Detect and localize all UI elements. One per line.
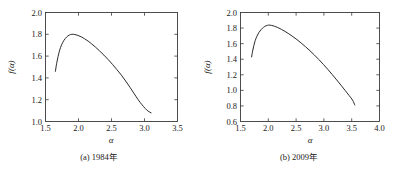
x-tick-label: 3.0 xyxy=(139,123,150,133)
x-tick-labels-a: 1.52.02.53.03.5 xyxy=(40,123,183,133)
x-tick-labels-b: 1.52.02.53.03.54.0 xyxy=(235,123,385,133)
y-tick-label: 1.0 xyxy=(31,117,42,127)
x-tick-label: 3.5 xyxy=(346,123,357,133)
x-tick-label: 2.5 xyxy=(291,123,302,133)
y-tick-label: 0.6 xyxy=(226,117,237,127)
x-tick-label: 4.0 xyxy=(374,123,385,133)
plot-frame-a xyxy=(46,13,178,122)
axes-group-a: 1.52.02.53.03.5 1.01.21.41.61.82.0 xyxy=(31,8,182,134)
y-tick-label: 1.6 xyxy=(31,51,42,61)
y-tick-label: 0.8 xyxy=(226,101,237,111)
y-tick-label: 1.2 xyxy=(226,70,237,80)
chart-panel-a: 1.52.02.53.03.5 1.01.21.41.61.82.0 α f(α… xyxy=(0,0,198,172)
data-curve-b xyxy=(252,25,355,105)
chart-panel-b: 1.52.02.53.03.54.0 0.60.81.01.21.41.61.8… xyxy=(198,0,396,172)
plot-svg-b: 1.52.02.53.03.54.0 0.60.81.01.21.41.61.8… xyxy=(198,0,396,172)
y-tick-label: 1.0 xyxy=(226,85,237,95)
x-axis-title-b: α xyxy=(308,135,313,145)
y-axis-title-b: f(α) xyxy=(202,60,212,73)
y-tick-label: 1.4 xyxy=(31,73,42,83)
y-tick-label: 1.8 xyxy=(31,29,42,39)
plot-svg-a: 1.52.02.53.03.5 1.01.21.41.61.82.0 α f(α… xyxy=(0,0,198,172)
axes-group-b: 1.52.02.53.03.54.0 0.60.81.01.21.41.61.8… xyxy=(226,8,384,134)
y-tick-label: 1.4 xyxy=(226,54,237,64)
tick-marks-a xyxy=(46,13,178,122)
panel-caption-a: (a) 1984年 xyxy=(80,152,118,162)
x-axis-title-a: α xyxy=(109,135,114,145)
x-tick-label: 2.0 xyxy=(73,123,84,133)
y-axis-title-a: f(α) xyxy=(6,60,16,73)
figure-container: 1.52.02.53.03.5 1.01.21.41.61.82.0 α f(α… xyxy=(0,0,396,172)
data-curve-a xyxy=(55,34,151,113)
x-tick-label: 3.5 xyxy=(172,123,183,133)
y-tick-label: 1.8 xyxy=(226,23,237,33)
y-tick-labels-a: 1.01.21.41.61.82.0 xyxy=(31,8,42,127)
y-tick-label: 2.0 xyxy=(31,8,42,18)
y-tick-label: 2.0 xyxy=(226,8,237,18)
x-tick-label: 2.0 xyxy=(263,123,274,133)
x-tick-label: 2.5 xyxy=(106,123,117,133)
y-tick-labels-b: 0.60.81.01.21.41.61.82.0 xyxy=(226,8,237,127)
panel-caption-b: (b) 2009年 xyxy=(280,152,318,162)
y-tick-label: 1.6 xyxy=(226,39,237,49)
x-tick-label: 3.0 xyxy=(319,123,330,133)
y-tick-label: 1.2 xyxy=(31,95,42,105)
